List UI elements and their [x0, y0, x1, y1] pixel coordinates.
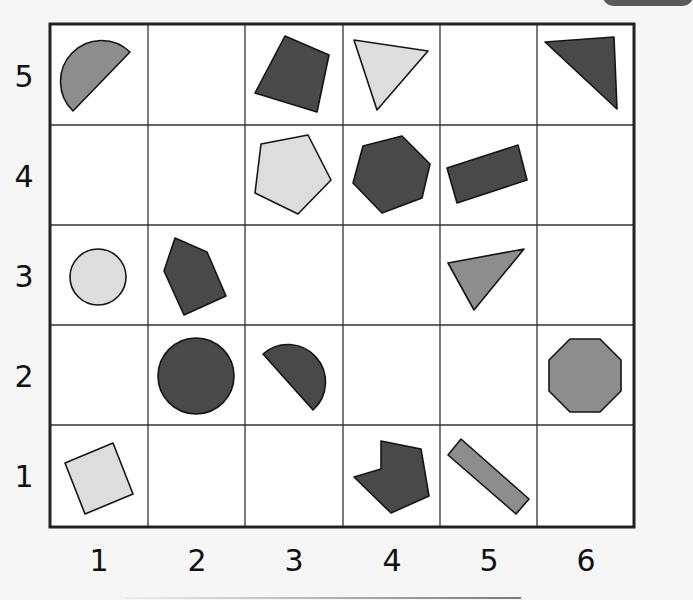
y-axis-label-5: 5 — [4, 62, 44, 92]
x-axis-label-3: 3 — [274, 546, 314, 576]
x-axis-label-1: 1 — [79, 546, 119, 576]
x-axis-label-5: 5 — [469, 546, 509, 576]
circle-shape-c2-r2 — [158, 338, 234, 414]
y-axis-label-4: 4 — [4, 162, 44, 192]
y-axis-label-1: 1 — [4, 462, 44, 492]
x-axis-label-6: 6 — [566, 546, 606, 576]
x-axis-label-2: 2 — [177, 546, 217, 576]
y-axis-label-2: 2 — [4, 362, 44, 392]
bottom-divider — [125, 597, 521, 599]
x-axis-label-4: 4 — [372, 546, 412, 576]
circle-shape-c1-r3 — [70, 249, 126, 305]
grid-background — [50, 24, 634, 527]
y-axis-label-3: 3 — [4, 262, 44, 292]
octagon-shape-c6-r2 — [549, 339, 621, 412]
